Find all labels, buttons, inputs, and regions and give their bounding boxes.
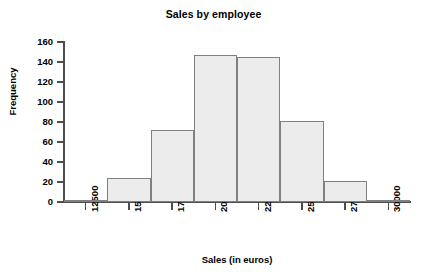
y-axis-tick (57, 121, 64, 123)
y-axis-tick (57, 201, 64, 203)
y-axis-tick (57, 81, 64, 83)
histogram-bar (194, 55, 237, 202)
y-axis-tick (57, 161, 64, 163)
histogram-bar (107, 178, 150, 202)
y-axis-tick-label: 60 (14, 137, 53, 147)
x-axis-tick (344, 203, 346, 210)
x-axis-tick (85, 203, 87, 210)
x-axis-tick (215, 203, 217, 210)
y-axis-tick (57, 61, 64, 63)
chart-title: Sales by employee (0, 8, 427, 20)
histogram-bar (367, 200, 410, 202)
x-axis-label: Sales (in euros) (64, 254, 410, 265)
histogram-bar (280, 121, 323, 202)
histogram-bar (151, 130, 194, 202)
histogram-bar (64, 200, 107, 202)
y-axis-tick-label: 120 (14, 77, 53, 87)
y-axis-tick-label: 20 (14, 177, 53, 187)
x-axis-tick (258, 203, 260, 210)
histogram-chart: Sales by employee Frequency 020406080100… (0, 0, 427, 277)
y-axis-tick-label: 160 (14, 37, 53, 47)
y-axis-tick (57, 141, 64, 143)
y-axis-tick-label: 100 (14, 97, 53, 107)
y-axis-tick-label: 80 (14, 117, 53, 127)
y-axis-tick (57, 101, 64, 103)
y-axis-tick-label: 40 (14, 157, 53, 167)
y-axis-tick-label: 0 (14, 197, 53, 207)
x-axis-tick (388, 203, 390, 210)
histogram-bar (237, 57, 280, 202)
x-axis-tick (171, 203, 173, 210)
x-axis-tick (128, 203, 130, 210)
y-axis-tick-label: 140 (14, 57, 53, 67)
y-axis-tick (57, 181, 64, 183)
plot-area (64, 42, 410, 202)
histogram-bar (324, 181, 367, 202)
y-axis-tick (57, 41, 64, 43)
x-axis-tick (301, 203, 303, 210)
